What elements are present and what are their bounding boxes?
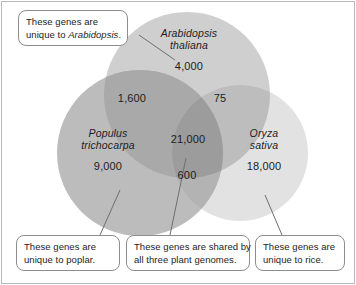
- callout-arabidopsis-line2-italic: Arabidopsis: [68, 29, 118, 40]
- callout-arabidopsis-line2-suffix: .: [118, 29, 121, 40]
- label-oryza-species: sativa: [250, 139, 278, 151]
- callout-poplar-line2: unique to poplar.: [24, 253, 112, 266]
- value-populus-exclusive: 9,000: [62, 160, 154, 172]
- callout-shared-line1: These genes are shared by: [134, 240, 242, 253]
- label-arabidopsis-species: thaliana: [170, 39, 208, 51]
- callout-rice-line1: These genes are: [263, 240, 337, 253]
- callout-poplar-line1: These genes are: [24, 240, 112, 253]
- value-arabidopsis-exclusive: 4,000: [144, 60, 234, 72]
- value-arabidopsis-oryza: 75: [200, 92, 240, 104]
- label-populus-genus: Populus: [89, 127, 128, 139]
- label-populus-species: trichocarpa: [81, 139, 135, 151]
- callout-poplar: These genes are unique to poplar.: [16, 235, 120, 271]
- callout-rice: These genes are unique to rice.: [255, 235, 345, 271]
- label-populus-name: Populus trichocarpa: [62, 128, 154, 152]
- callout-arabidopsis-line2: unique to Arabidopsis.: [26, 28, 120, 41]
- value-oryza-exclusive: 18,000: [225, 160, 303, 172]
- venn-diagram-figure: Arabidopsis thaliana 4,000 Populus trich…: [0, 0, 356, 285]
- label-oryza-name: Oryza sativa: [225, 128, 303, 152]
- callout-arabidopsis: These genes are unique to Arabidopsis.: [18, 10, 128, 46]
- callout-rice-line2: unique to rice.: [263, 253, 337, 266]
- value-populus-arabidopsis: 1,600: [102, 92, 162, 104]
- callout-shared: These genes are shared by all three plan…: [126, 235, 250, 271]
- label-oryza-genus: Oryza: [250, 127, 279, 139]
- value-populus-oryza: 600: [165, 169, 209, 181]
- label-arabidopsis-genus: Arabidopsis: [161, 27, 218, 39]
- callout-shared-line2: all three plant genomes.: [134, 253, 242, 266]
- callout-arabidopsis-line2-prefix: unique to: [26, 29, 68, 40]
- callout-arabidopsis-line1: These genes are: [26, 15, 120, 28]
- label-arabidopsis-name: Arabidopsis thaliana: [144, 28, 234, 52]
- value-all-three: 21,000: [156, 133, 220, 145]
